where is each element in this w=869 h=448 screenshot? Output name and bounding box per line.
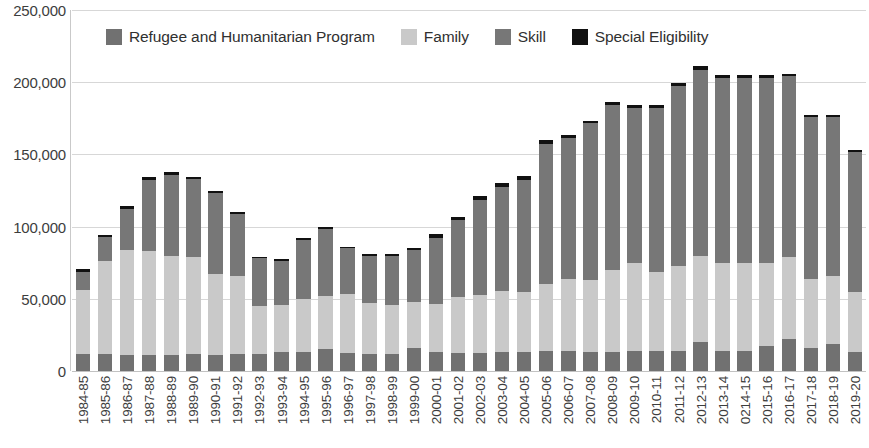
bar-segment [782, 339, 797, 371]
bar-column [252, 257, 267, 371]
y-axis-tick-label: 250,000 [13, 2, 66, 19]
bar-segment [340, 294, 355, 352]
bar-column [407, 248, 422, 371]
bar-segment [539, 284, 554, 350]
bar-segment [429, 352, 444, 371]
x-axis-tick-label: 2004-05 [517, 376, 532, 424]
bar-segment [804, 117, 819, 279]
bar-segment [98, 237, 113, 261]
legend-label: Refugee and Humanitarian Program [129, 28, 375, 46]
bar-column [737, 75, 752, 371]
bar-column [120, 206, 135, 371]
plot-area [72, 10, 866, 371]
legend-label: Skill [518, 28, 546, 46]
bar-segment [649, 351, 664, 371]
bar-segment [142, 251, 157, 355]
bar-segment [252, 306, 267, 354]
bar-segment [208, 355, 223, 371]
x-axis-tick-label: 1989-90 [186, 376, 201, 424]
bar-segment [296, 352, 311, 371]
bar-segment [848, 352, 863, 371]
bar-segment [318, 296, 333, 349]
bar-segment [627, 108, 642, 263]
bar-segment [495, 352, 510, 371]
x-axis-tick-label: 2005-06 [539, 376, 554, 424]
bar-column [627, 105, 642, 371]
bar-segment [848, 292, 863, 352]
legend-item[interactable]: Refugee and Humanitarian Program [106, 28, 375, 46]
x-axis-tick-label: 2007-08 [583, 376, 598, 424]
x-axis-tick-label: 2016-17 [782, 376, 797, 424]
bar-column [671, 83, 686, 371]
legend-label: Special Eligibility [595, 28, 709, 46]
axis-baseline [72, 371, 866, 372]
bar-segment [737, 78, 752, 263]
bar-segment [473, 200, 488, 295]
bar-segment [98, 354, 113, 371]
legend-label: Family [424, 28, 469, 46]
y-axis-tick-label: 50,000 [21, 290, 66, 307]
bar-segment [759, 78, 774, 263]
y-axis: 250,000200,000150,000100,00050,0000 [0, 0, 66, 380]
bar-segment [517, 180, 532, 291]
chart-legend: Refugee and Humanitarian ProgramFamilySk… [106, 28, 734, 46]
bar-segment [120, 250, 135, 355]
bar-segment [296, 299, 311, 352]
bar-segment [517, 292, 532, 352]
x-axis-tick-label: 1998-99 [385, 376, 400, 424]
bar-segment [715, 351, 730, 371]
bar-segment [186, 257, 201, 354]
x-axis-tick-label: 1991-92 [230, 376, 245, 424]
bars-layer [72, 10, 866, 371]
bar-segment [782, 257, 797, 339]
bar-segment [561, 279, 576, 352]
bar-column [649, 105, 664, 371]
legend-item[interactable]: Special Eligibility [572, 28, 709, 46]
bar-segment [76, 272, 91, 290]
bar-column [693, 66, 708, 371]
bar-column [340, 247, 355, 371]
bar-column [517, 176, 532, 371]
y-axis-tick-label: 150,000 [13, 146, 66, 163]
bar-segment [671, 266, 686, 351]
x-axis-tick-label: 1993-94 [275, 376, 290, 424]
legend-item[interactable]: Family [401, 28, 469, 46]
x-axis-tick-label: 2013-14 [716, 376, 731, 424]
bar-segment [605, 105, 620, 270]
bar-segment [671, 351, 686, 371]
bar-column [98, 235, 113, 371]
bar-segment [76, 354, 91, 371]
bar-column [274, 259, 289, 371]
bar-segment [385, 256, 400, 305]
bar-segment [627, 351, 642, 371]
bar-column [561, 135, 576, 371]
bar-segment [407, 250, 422, 301]
bar-segment [274, 305, 289, 352]
bar-segment [252, 354, 267, 371]
x-axis-tick-label: 1985-86 [98, 376, 113, 424]
bar-segment [385, 354, 400, 371]
bar-segment [583, 280, 598, 352]
legend-item[interactable]: Skill [495, 28, 546, 46]
x-axis-tick-label: 2012-13 [694, 376, 709, 424]
bar-column [208, 191, 223, 371]
bar-segment [605, 352, 620, 371]
stacked-bar-chart: 250,000200,000150,000100,00050,0000 Refu… [0, 0, 869, 448]
bar-column [495, 183, 510, 371]
x-axis-tick-label: 2008-09 [605, 376, 620, 424]
bar-segment [142, 355, 157, 371]
bar-column [296, 238, 311, 371]
bar-column [429, 234, 444, 371]
bar-segment [429, 304, 444, 352]
bar-segment [804, 279, 819, 348]
bar-segment [583, 352, 598, 371]
bar-segment [671, 86, 686, 267]
bar-segment [826, 344, 841, 371]
y-axis-tick-label: 100,000 [13, 218, 66, 235]
bar-segment [407, 348, 422, 371]
bar-segment [649, 272, 664, 351]
x-axis-tick-label: 1994-95 [297, 376, 312, 424]
bar-column [782, 74, 797, 371]
bar-segment [230, 354, 245, 371]
bar-segment [517, 352, 532, 371]
